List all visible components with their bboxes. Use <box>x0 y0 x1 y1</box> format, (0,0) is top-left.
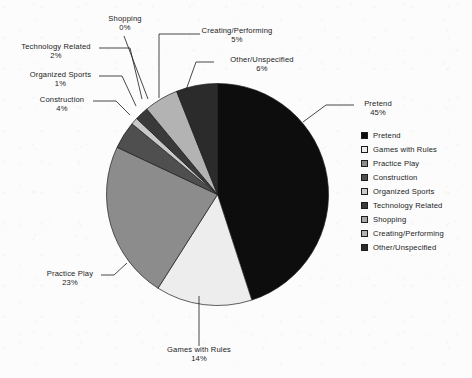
callout-organized-sports-name: Organized Sports <box>22 70 99 79</box>
chart-legend: PretendGames with RulesPractice PlayCons… <box>361 128 444 255</box>
callout-pretend-pct: 45% <box>357 108 399 117</box>
callout-pretend: Pretend 45% <box>357 99 399 118</box>
legend-swatch-creating-performing <box>361 230 368 237</box>
callout-games-with-rules-pct: 14% <box>156 354 242 363</box>
leader-line-shopping-path <box>124 36 148 99</box>
legend-label-games-with-rules: Games with Rules <box>373 145 437 154</box>
legend-swatch-technology-related <box>361 202 368 209</box>
leader-line-pretend-path <box>303 105 354 122</box>
callout-other-unspecified-pct: 6% <box>215 64 309 73</box>
legend-item-organized-sports[interactable]: Organized Sports <box>361 184 444 198</box>
legend-swatch-other-unspecified <box>361 244 368 251</box>
pie-slices-group <box>106 83 328 305</box>
callout-technology-related-name: Technology Related <box>13 42 99 51</box>
callout-organized-sports-pct: 1% <box>22 79 99 88</box>
legend-swatch-pretend <box>361 132 368 139</box>
leader-line-technology-related-path <box>99 48 142 99</box>
leader-line-practice-play-path <box>101 263 127 275</box>
callout-shopping-name: Shopping <box>97 14 153 23</box>
legend-item-technology-related[interactable]: Technology Related <box>361 198 444 212</box>
legend-label-creating-performing: Creating/Performing <box>373 229 444 238</box>
callout-games-with-rules: Games with Rules 14% <box>156 345 242 364</box>
legend-label-other-unspecified: Other/Unspecified <box>373 243 436 252</box>
callout-creating-performing-name: Creating/Performing <box>183 26 291 35</box>
legend-label-organized-sports: Organized Sports <box>373 187 435 196</box>
leader-line-construction-path <box>93 101 130 115</box>
callout-practice-play: Practice Play 23% <box>39 269 101 288</box>
legend-item-shopping[interactable]: Shopping <box>361 213 444 227</box>
legend-label-pretend: Pretend <box>373 131 401 140</box>
legend-swatch-games-with-rules <box>361 146 368 153</box>
legend-swatch-organized-sports <box>361 188 368 195</box>
legend-label-shopping: Shopping <box>373 215 406 224</box>
leader-line-organized-sports-path <box>99 76 136 106</box>
callout-technology-related-pct: 2% <box>13 51 99 60</box>
callout-creating-performing-pct: 5% <box>183 35 291 44</box>
callout-other-unspecified-name: Other/Unspecified <box>215 55 309 64</box>
callout-shopping-pct: 0% <box>97 23 153 32</box>
legend-label-technology-related: Technology Related <box>373 201 442 210</box>
legend-swatch-construction <box>361 174 368 181</box>
callout-construction: Construction 4% <box>31 95 93 114</box>
legend-item-creating-performing[interactable]: Creating/Performing <box>361 227 444 241</box>
pie-chart-figure: Shopping 0% Creating/Performing 5% Techn… <box>0 0 472 378</box>
callout-technology-related: Technology Related 2% <box>13 42 99 61</box>
callout-creating-performing: Creating/Performing 5% <box>183 26 291 45</box>
callout-games-with-rules-name: Games with Rules <box>156 345 242 354</box>
legend-item-practice-play[interactable]: Practice Play <box>361 156 444 170</box>
callout-pretend-name: Pretend <box>357 99 399 108</box>
legend-swatch-shopping <box>361 216 368 223</box>
legend-label-construction: Construction <box>373 173 417 182</box>
callout-practice-play-pct: 23% <box>39 278 101 287</box>
legend-item-games-with-rules[interactable]: Games with Rules <box>361 142 444 156</box>
callout-practice-play-name: Practice Play <box>39 269 101 278</box>
legend-item-pretend[interactable]: Pretend <box>361 128 444 142</box>
callout-construction-pct: 4% <box>31 104 93 113</box>
legend-label-practice-play: Practice Play <box>373 159 419 168</box>
callout-other-unspecified: Other/Unspecified 6% <box>215 55 309 74</box>
legend-item-construction[interactable]: Construction <box>361 170 444 184</box>
legend-swatch-practice-play <box>361 160 368 167</box>
callout-organized-sports: Organized Sports 1% <box>22 70 99 89</box>
callout-construction-name: Construction <box>31 95 93 104</box>
callout-shopping: Shopping 0% <box>97 14 153 33</box>
legend-item-other-unspecified[interactable]: Other/Unspecified <box>361 241 444 255</box>
